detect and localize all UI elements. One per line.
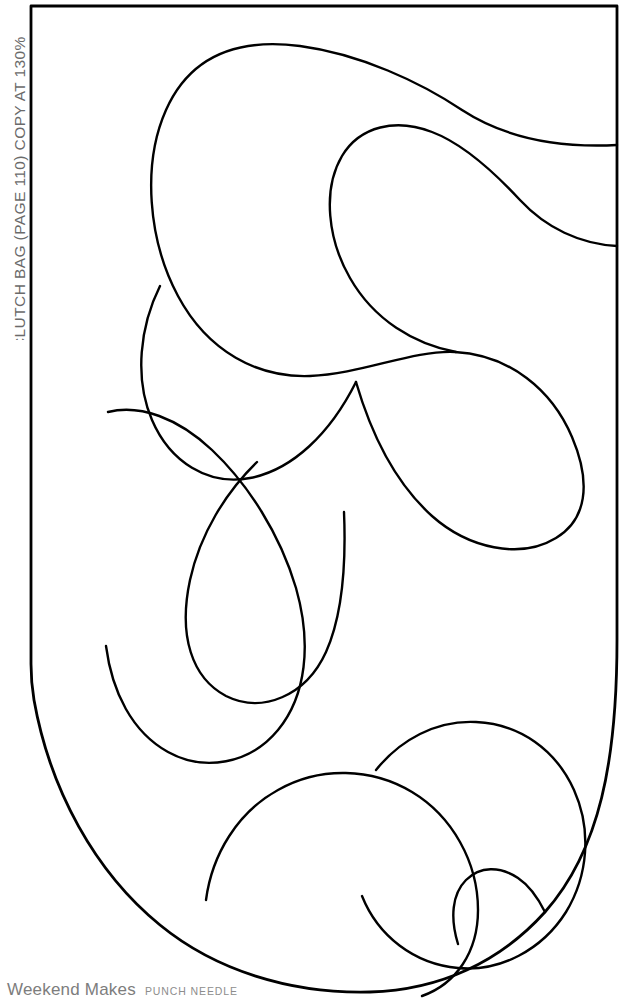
curve-upper-large-swirl [151,44,617,549]
curve-lower-left-sweep [106,410,305,763]
footer-brand-label: Weekend Makes [7,980,136,1000]
curve-bottom-right-tail [453,869,545,944]
footer: Weekend Makes PUNCH NEEDLE [7,980,238,1002]
clutch-bag-template-outline [31,6,617,992]
curve-upper-inner-hook [330,125,617,352]
footer-series-label: PUNCH NEEDLE [145,985,238,997]
curve-middle-left-loop [141,286,356,480]
curve-lower-right-blob [362,722,585,969]
punch-needle-template-artwork [0,0,624,1007]
curve-middle-teardrop [186,462,345,703]
pattern-page: CLUTCH BAG (PAGE 110) COPY AT 130% Weeke… [0,0,624,1007]
curve-bottom-big-blob [206,773,478,996]
